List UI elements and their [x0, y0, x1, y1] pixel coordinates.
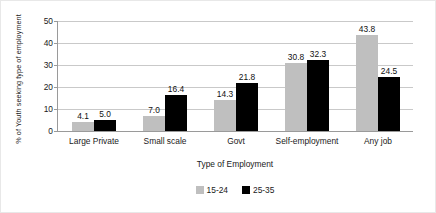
x-axis-tick-label: Any job: [364, 136, 392, 146]
y-axis-tick-label: 0: [48, 126, 53, 136]
x-axis-tick-label: Govt: [227, 136, 245, 146]
legend-label: 15-24: [207, 185, 228, 195]
bar-value-label: 4.1: [77, 111, 89, 121]
bar-group: 7.016.4Small scale: [129, 21, 200, 131]
plot-area: 010203040504.15.0Large Private7.016.4Sma…: [57, 21, 413, 132]
y-axis-tick-label: 50: [44, 16, 53, 26]
legend-swatch-icon: [242, 186, 250, 194]
y-axis-tick-label: 40: [44, 38, 53, 48]
y-axis-tick-label: 20: [44, 82, 53, 92]
bar-group: 30.832.3Self-employment: [271, 21, 342, 131]
bar-value-label: 7.0: [148, 105, 160, 115]
chart-legend: 15-2425-35: [57, 185, 413, 195]
bar-chart-figure: % of Youth seeking type of employment 01…: [0, 0, 436, 213]
bar: 4.1: [72, 122, 94, 131]
bar-value-label: 24.5: [381, 66, 397, 76]
bar-group: 4.15.0Large Private: [58, 21, 129, 131]
bar-value-label: 14.3: [217, 89, 233, 99]
bar-value-label: 32.3: [310, 49, 326, 59]
bar: 21.8: [236, 83, 258, 131]
bar-value-label: 43.8: [359, 24, 375, 34]
y-axis-title: % of Youth seeking type of employment: [13, 9, 25, 149]
bar-value-label: 30.8: [288, 52, 304, 62]
bar: 43.8: [356, 35, 378, 131]
bar-group: 14.321.8Govt: [200, 21, 271, 131]
legend-item: 25-35: [242, 185, 274, 195]
bar: 16.4: [165, 95, 187, 131]
bar: 7.0: [143, 116, 165, 131]
bar: 14.3: [214, 100, 236, 131]
y-axis-tick-label: 30: [44, 60, 53, 70]
x-axis-tick-label: Small scale: [144, 136, 187, 146]
bar: 5.0: [94, 120, 116, 131]
bar-value-label: 16.4: [168, 84, 184, 94]
y-axis-tick-mark: [54, 131, 58, 132]
bar-value-label: 21.8: [239, 72, 255, 82]
bar: 30.8: [285, 63, 307, 131]
legend-label: 25-35: [253, 185, 274, 195]
bar: 24.5: [378, 77, 400, 131]
x-axis-title: Type of Employment: [57, 159, 413, 169]
bar: 32.3: [307, 60, 329, 131]
y-axis-tick-label: 10: [44, 104, 53, 114]
legend-swatch-icon: [196, 186, 204, 194]
x-axis-tick-label: Large Private: [69, 136, 119, 146]
bar-group: 43.824.5Any job: [342, 21, 413, 131]
x-axis-tick-label: Self-employment: [276, 136, 339, 146]
legend-item: 15-24: [196, 185, 228, 195]
bar-value-label: 5.0: [99, 109, 111, 119]
